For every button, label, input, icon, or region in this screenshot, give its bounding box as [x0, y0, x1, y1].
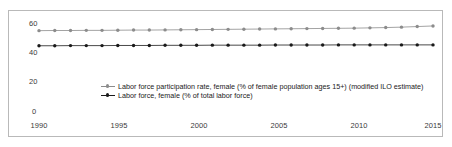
x-axis-tick-2005: 2005: [270, 121, 287, 130]
data-point-marker: [179, 44, 182, 47]
data-point-marker: [258, 43, 261, 46]
x-axis-tick-1990: 1990: [30, 121, 47, 130]
data-point-marker: [321, 27, 324, 30]
legend-line-marker-icon: [101, 91, 115, 100]
legend-item-labor-force-share: Labor force, female (% of total labor fo…: [101, 91, 423, 100]
chart-legend: Labor force participation rate, female (…: [101, 82, 423, 100]
y-axis-tick-40: 40: [29, 48, 38, 57]
data-point-marker: [368, 43, 371, 46]
legend-item-participation-rate: Labor force participation rate, female (…: [101, 82, 423, 91]
data-point-marker: [100, 44, 103, 47]
y-axis-tick-0: 0: [32, 107, 36, 116]
data-point-marker: [321, 43, 324, 46]
data-point-marker: [100, 29, 103, 32]
data-point-marker: [258, 27, 261, 30]
data-point-marker: [400, 43, 403, 46]
data-point-marker: [242, 27, 245, 30]
data-point-marker: [211, 43, 214, 46]
data-point-marker: [163, 28, 166, 31]
data-point-marker: [195, 44, 198, 47]
data-point-marker: [353, 43, 356, 46]
data-point-marker: [179, 28, 182, 31]
legend-label-labor-force-share: Labor force, female (% of total labor fo…: [118, 91, 253, 100]
legend-label-participation-rate: Labor force participation rate, female (…: [118, 82, 423, 91]
data-point-marker: [148, 44, 151, 47]
series-layer: [9, 11, 444, 138]
data-point-marker: [289, 43, 292, 46]
data-point-marker: [337, 43, 340, 46]
series-line: [39, 26, 433, 31]
x-axis-tick-1995: 1995: [110, 121, 127, 130]
data-point-marker: [400, 25, 403, 28]
chart-container: 60 40 20 0 1990 1995 2000 2005 2010 2015…: [8, 10, 443, 137]
data-point-marker: [416, 43, 419, 46]
data-point-marker: [384, 43, 387, 46]
data-point-marker: [132, 44, 135, 47]
data-point-marker: [37, 29, 40, 32]
data-point-marker: [69, 29, 72, 32]
data-point-marker: [305, 43, 308, 46]
data-point-marker: [274, 43, 277, 46]
data-point-marker: [416, 25, 419, 28]
data-point-marker: [116, 29, 119, 32]
data-point-marker: [289, 27, 292, 30]
x-axis-tick-2015: 2015: [424, 121, 441, 130]
data-point-marker: [85, 29, 88, 32]
data-point-marker: [226, 28, 229, 31]
data-point-marker: [37, 44, 40, 47]
data-point-marker: [274, 27, 277, 30]
data-point-marker: [69, 44, 72, 47]
data-point-marker: [353, 26, 356, 29]
data-point-marker: [163, 44, 166, 47]
y-axis-tick-60: 60: [29, 19, 38, 28]
data-point-marker: [211, 28, 214, 31]
data-point-marker: [53, 29, 56, 32]
data-point-marker: [85, 44, 88, 47]
legend-dot-icon: [106, 84, 109, 87]
series-line: [39, 45, 433, 46]
data-point-marker: [226, 43, 229, 46]
data-point-marker: [242, 43, 245, 46]
plot-area: 60 40 20 0 1990 1995 2000 2005 2010 2015: [9, 11, 444, 138]
x-axis-tick-2000: 2000: [190, 121, 207, 130]
data-point-marker: [384, 26, 387, 29]
legend-line-marker-icon: [101, 82, 115, 91]
data-point-marker: [116, 44, 119, 47]
data-point-marker: [431, 24, 434, 27]
legend-dot-icon: [106, 93, 109, 96]
data-point-marker: [305, 27, 308, 30]
x-axis-tick-2010: 2010: [350, 121, 367, 130]
data-point-marker: [148, 28, 151, 31]
y-axis-tick-20: 20: [29, 77, 38, 86]
data-point-marker: [337, 27, 340, 30]
data-point-marker: [368, 26, 371, 29]
data-point-marker: [195, 28, 198, 31]
data-point-marker: [132, 28, 135, 31]
data-point-marker: [53, 44, 56, 47]
data-point-marker: [431, 43, 434, 46]
